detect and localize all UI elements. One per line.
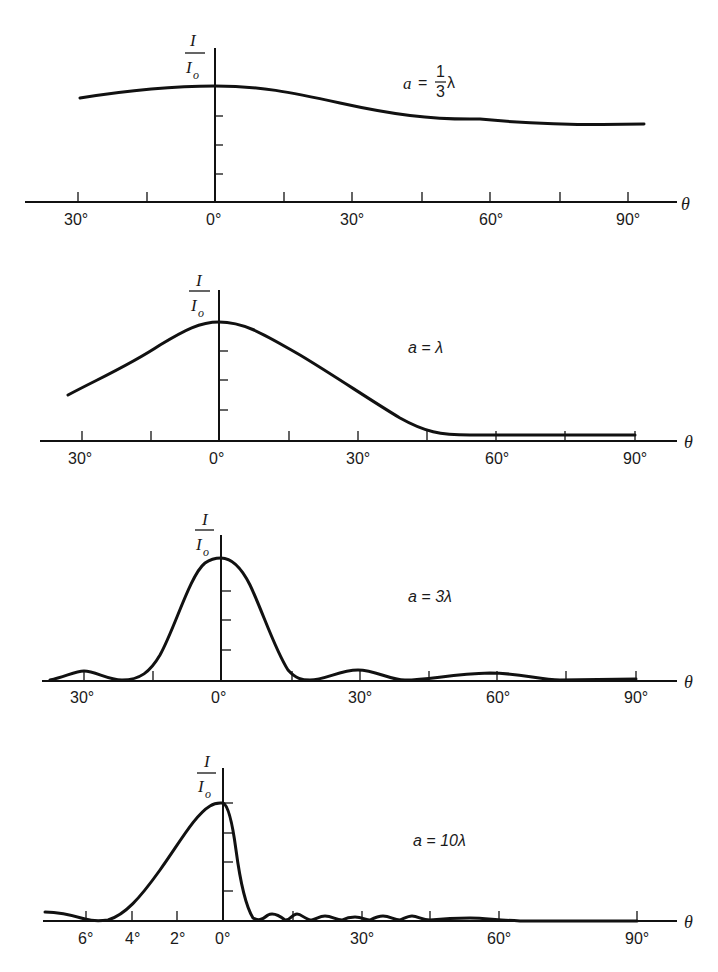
svg-text:I: I bbox=[201, 510, 209, 529]
y-axis-label: I I o bbox=[189, 271, 210, 320]
tick-label: 0° bbox=[206, 211, 221, 228]
intensity-curve bbox=[45, 803, 637, 921]
tick-label: 0° bbox=[215, 930, 230, 947]
tick-label: 30° bbox=[350, 930, 374, 947]
panel-a-lambda: 30° 0° 30° 60° 90° θ I I o a = λ bbox=[40, 271, 693, 467]
svg-text:o: o bbox=[203, 545, 209, 559]
tick-label: 30° bbox=[70, 689, 94, 706]
tick-label: 0° bbox=[211, 689, 226, 706]
diffraction-figure: 30° 0° 30° 60° 90° θ I I o a = 1 3 λ bbox=[0, 0, 718, 972]
panel-a-3-lambda: 30° 0° 30° 60° 90° θ I I o a = 3λ bbox=[42, 510, 693, 706]
tick-label: 30° bbox=[68, 450, 92, 467]
tick-label: 30° bbox=[64, 211, 88, 228]
svg-text:o: o bbox=[205, 787, 211, 801]
svg-text:I: I bbox=[197, 777, 205, 796]
tick-label: 60° bbox=[486, 689, 510, 706]
tick-label: 60° bbox=[485, 450, 509, 467]
svg-text:I: I bbox=[189, 31, 197, 50]
parameter-label: a = 3λ bbox=[408, 588, 452, 605]
svg-text:I: I bbox=[195, 535, 203, 554]
tick-label: 2° bbox=[170, 930, 185, 947]
svg-text:o: o bbox=[193, 68, 199, 82]
tick-label: 90° bbox=[625, 930, 649, 947]
svg-text:I: I bbox=[195, 271, 203, 290]
tick-label: 90° bbox=[624, 689, 648, 706]
svg-text:I: I bbox=[203, 752, 211, 771]
y-axis-label: I I o bbox=[197, 752, 216, 801]
svg-text:o: o bbox=[198, 306, 204, 320]
tick-label: 6° bbox=[78, 930, 93, 947]
tick-label: 30° bbox=[346, 450, 370, 467]
svg-text:a: a bbox=[403, 74, 412, 93]
svg-text:1: 1 bbox=[436, 63, 445, 80]
parameter-label: a = λ bbox=[408, 339, 443, 356]
y-axis-label: I I o bbox=[195, 510, 214, 559]
theta-label: θ bbox=[684, 672, 693, 692]
tick-label: 90° bbox=[623, 450, 647, 467]
tick-label: 60° bbox=[487, 930, 511, 947]
tick-label: 90° bbox=[616, 211, 640, 228]
theta-label: θ bbox=[681, 194, 690, 214]
tick-label: 30° bbox=[340, 211, 364, 228]
theta-label: θ bbox=[684, 432, 693, 452]
theta-label: θ bbox=[684, 912, 693, 932]
intensity-curve bbox=[68, 322, 635, 435]
svg-text:I: I bbox=[185, 58, 193, 77]
svg-text:I: I bbox=[190, 296, 198, 315]
intensity-curve bbox=[50, 558, 636, 680]
svg-text:=: = bbox=[418, 74, 427, 91]
tick-label: 0° bbox=[209, 450, 224, 467]
y-axis-label: I I o bbox=[185, 31, 205, 82]
svg-text:3: 3 bbox=[436, 83, 445, 100]
svg-text:λ: λ bbox=[447, 74, 455, 91]
intensity-curve bbox=[80, 86, 644, 124]
panel-a-third-lambda: 30° 0° 30° 60° 90° θ I I o a = 1 3 λ bbox=[25, 31, 690, 228]
tick-label: 4° bbox=[125, 930, 140, 947]
tick-label: 60° bbox=[479, 211, 503, 228]
parameter-label: a = 10λ bbox=[413, 832, 466, 849]
panel-a-10-lambda: 6° 4° 2° 0° 30° 60° 90° θ I I o a = 10λ bbox=[43, 752, 693, 947]
tick-label: 30° bbox=[348, 689, 372, 706]
parameter-label: a = 1 3 λ bbox=[403, 63, 455, 100]
